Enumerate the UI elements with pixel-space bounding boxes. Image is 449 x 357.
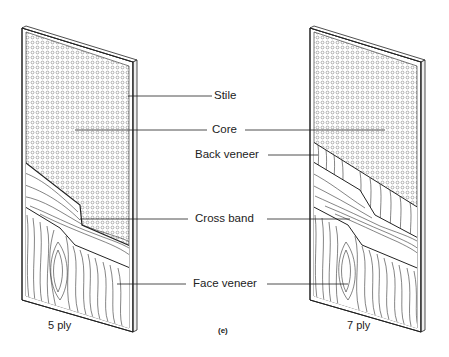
label-cross-band: Cross band [195,213,254,225]
caption-7-ply: 7 ply [347,320,370,331]
label-core: Core [212,124,237,136]
label-stile: Stile [214,90,236,102]
plywood-door-diagram [0,0,449,357]
panel-5-ply [22,26,137,335]
label-face-veneer: Face veneer [193,278,257,290]
figure-label: (e) [218,327,228,335]
label-back-veneer: Back veneer [195,149,259,161]
caption-5-ply: 5 ply [48,320,71,331]
panel-7-ply [310,26,425,335]
